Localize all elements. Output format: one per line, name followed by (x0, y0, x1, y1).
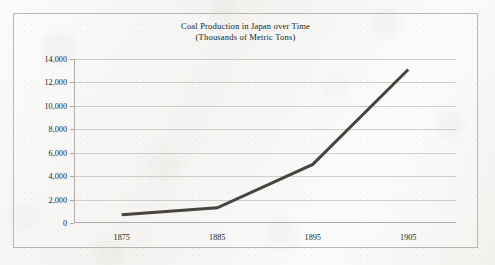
chart-title-line-2: (Thousands of Metric Tons) (14, 32, 477, 43)
y-axis-tick-mark (70, 223, 74, 224)
y-axis-tick-label: 2,000 (49, 195, 67, 204)
chart-title-line-1: Coal Production in Japan over Time (14, 21, 477, 32)
x-axis-tick-label: 1885 (209, 233, 225, 242)
data-series-line (74, 59, 456, 223)
y-axis-tick-label: 6,000 (49, 148, 67, 157)
y-axis-tick-label: 8,000 (49, 125, 67, 134)
y-axis-tick-label: 4,000 (49, 172, 67, 181)
x-axis-tick-label: 1895 (305, 233, 321, 242)
chart-frame: Coal Production in Japan over Time (Thou… (13, 13, 478, 248)
y-axis-tick-label: 10,000 (44, 101, 67, 110)
y-axis-tick-label: 12,000 (44, 78, 67, 87)
x-axis-tick-label: 1905 (400, 233, 416, 242)
chart-title: Coal Production in Japan over Time (Thou… (14, 21, 477, 44)
y-axis-tick-label: 0 (63, 219, 67, 228)
y-axis-tick-label: 14,000 (44, 55, 67, 64)
plot-area: 02,0004,0006,0008,00010,00012,00014,000 … (74, 59, 456, 223)
x-axis-tick-label: 1875 (114, 233, 130, 242)
